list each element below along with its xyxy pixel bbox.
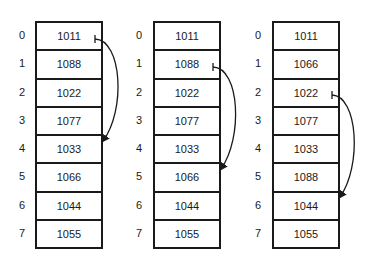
- array-cell: 1066: [37, 164, 101, 192]
- array-cell: 1022: [274, 80, 338, 108]
- array-cell: 1066: [155, 164, 219, 192]
- index-label: 4: [250, 134, 266, 162]
- array-cell: 1044: [155, 193, 219, 221]
- array-cell: 1033: [274, 136, 338, 164]
- array-cell: 1044: [274, 193, 338, 221]
- index-label: 2: [131, 78, 147, 106]
- index-label: 7: [14, 219, 30, 247]
- index-label: 2: [250, 78, 266, 106]
- array-cell: 1011: [155, 23, 219, 51]
- array-cell: 1022: [155, 80, 219, 108]
- index-label: 3: [131, 106, 147, 134]
- array-cell: 1088: [274, 164, 338, 192]
- array-box: 1011 1066 1022 1077 1033 1088 1044 1055: [272, 21, 340, 249]
- index-label: 2: [14, 78, 30, 106]
- array-cell: 1077: [155, 108, 219, 136]
- array-cell: 1055: [274, 221, 338, 249]
- array-box: 1011 1088 1022 1077 1033 1066 1044 1055: [35, 21, 103, 249]
- index-label: 1: [131, 49, 147, 77]
- index-label: 5: [131, 162, 147, 190]
- array-cell: 1011: [274, 23, 338, 51]
- index-label: 0: [14, 21, 30, 49]
- array-cell: 1077: [274, 108, 338, 136]
- index-label: 1: [14, 49, 30, 77]
- index-label: 6: [250, 191, 266, 219]
- array-cell: 1022: [37, 80, 101, 108]
- index-label: 5: [250, 162, 266, 190]
- array-cell: 1044: [37, 193, 101, 221]
- index-label: 1: [250, 49, 266, 77]
- index-label: 4: [14, 134, 30, 162]
- array-cell: 1066: [274, 51, 338, 79]
- array-cell: 1033: [37, 136, 101, 164]
- index-label: 4: [131, 134, 147, 162]
- index-label: 0: [131, 21, 147, 49]
- index-label: 3: [250, 106, 266, 134]
- index-label: 7: [250, 219, 266, 247]
- index-label: 5: [14, 162, 30, 190]
- index-label: 6: [131, 191, 147, 219]
- array-cell: 1033: [155, 136, 219, 164]
- array-cell: 1088: [155, 51, 219, 79]
- index-label: 3: [14, 106, 30, 134]
- array-cell: 1088: [37, 51, 101, 79]
- array-cell: 1055: [155, 221, 219, 249]
- array-box: 1011 1088 1022 1077 1033 1066 1044 1055: [153, 21, 221, 249]
- index-label: 0: [250, 21, 266, 49]
- array-cell: 1011: [37, 23, 101, 51]
- array-cell: 1055: [37, 221, 101, 249]
- array-cell: 1077: [37, 108, 101, 136]
- index-label: 6: [14, 191, 30, 219]
- index-label: 7: [131, 219, 147, 247]
